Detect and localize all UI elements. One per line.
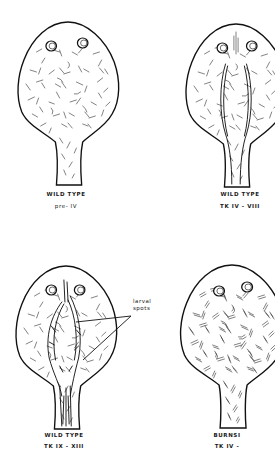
panel-burnsi-tk-iv	[181, 265, 275, 428]
panel-1-stage: pre- IV	[55, 203, 77, 209]
panel-2-title: WILD TYPE	[220, 191, 259, 197]
left-eye-icon	[214, 286, 225, 296]
left-eye-icon	[46, 285, 57, 295]
panel-3-title: WILD TYPE	[44, 432, 83, 438]
panel-wild-type-tk-iv-viii	[186, 24, 275, 187]
annotation-line-2: spots	[133, 305, 151, 312]
right-eye-icon	[247, 41, 258, 51]
panel-wild-type-tk-ix-xiii	[16, 266, 117, 429]
right-eye-icon	[74, 285, 85, 295]
annotation-line-1: larval	[133, 298, 151, 305]
left-eye-icon	[46, 41, 57, 51]
head-outline	[181, 265, 275, 428]
larval-spots-annotation: larval spots	[133, 298, 151, 312]
panel-4-title: BURNSI	[213, 432, 240, 438]
panel-1-title: WILD TYPE	[46, 191, 85, 197]
panel-wild-type-pre-iv	[18, 22, 119, 185]
panel-4-stage: TK IV -	[215, 443, 240, 449]
panel-3-stage: TK IX - XIII	[44, 443, 84, 449]
head-outline	[18, 22, 119, 185]
right-eye-icon	[77, 38, 88, 48]
tadpole-illustrations	[0, 0, 275, 451]
panel-2-stage: TK IV - VIII	[220, 203, 260, 209]
right-eye-icon	[242, 282, 253, 292]
figure-canvas: WILD TYPE pre- IV WILD TYPE TK IV - VIII…	[0, 0, 275, 451]
left-eye-icon	[217, 43, 228, 53]
